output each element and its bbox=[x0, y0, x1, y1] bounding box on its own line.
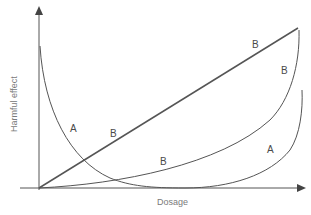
y-axis-label: Harmful effect bbox=[9, 76, 19, 132]
label-a-right: A bbox=[267, 144, 274, 155]
label-b-line: B bbox=[110, 128, 117, 139]
label-b-curve-mid: B bbox=[160, 156, 167, 167]
line-b-straight bbox=[39, 28, 298, 188]
label-a-left: A bbox=[70, 123, 77, 134]
label-b-curve-top: B bbox=[281, 65, 288, 76]
label-b-line-top: B bbox=[252, 39, 259, 50]
x-axis-label: Dosage bbox=[157, 197, 188, 207]
dose-response-diagram: A B B B B A Harmful effect Dosage bbox=[0, 0, 311, 215]
x-axis-arrow-icon bbox=[297, 184, 306, 192]
y-axis-arrow-icon bbox=[35, 6, 43, 15]
